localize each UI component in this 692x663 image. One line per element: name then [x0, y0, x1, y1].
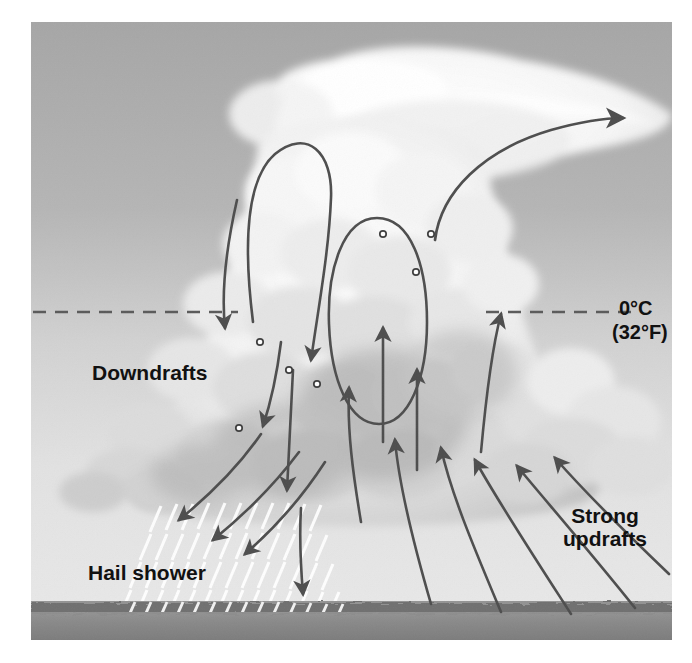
label-downdrafts: Downdrafts [92, 362, 208, 385]
label-strong-updrafts-line1: Strong [563, 505, 647, 528]
label-strong-updrafts: Strong updrafts [563, 505, 647, 550]
label-strong-updrafts-line2: updrafts [563, 528, 647, 551]
label-hail-shower: Hail shower [88, 562, 206, 585]
label-freezing-celsius: 0°C [619, 298, 653, 320]
label-freezing-fahrenheit: (32°F) [612, 322, 668, 344]
figure-canvas: Downdrafts Hail shower Strong updrafts 0… [0, 0, 692, 663]
